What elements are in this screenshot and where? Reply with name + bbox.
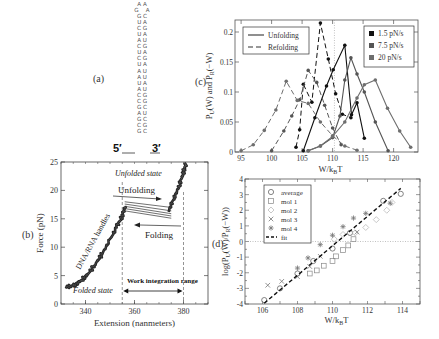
svg-text:-4: -4 xyxy=(237,300,243,309)
svg-text:114: 114 xyxy=(397,306,408,315)
svg-text:mol 2: mol 2 xyxy=(281,207,298,215)
svg-text:112: 112 xyxy=(362,306,373,315)
svg-text:mol 4: mol 4 xyxy=(281,225,298,233)
crooks-log-ratio-chart: 106108110112114-4-3-2-101234W/kBTlog(PU(… xyxy=(0,0,439,339)
svg-text:108: 108 xyxy=(292,306,304,315)
svg-text:mol 1: mol 1 xyxy=(281,198,298,206)
svg-text:log(PU(W)/PR(−W)): log(PU(W)/PR(−W)) xyxy=(220,207,231,276)
svg-text:-1: -1 xyxy=(237,253,243,262)
svg-text:110: 110 xyxy=(327,306,338,315)
svg-text:-3: -3 xyxy=(237,284,243,293)
svg-text:average: average xyxy=(281,189,303,197)
svg-text:0: 0 xyxy=(239,238,243,247)
svg-text:2: 2 xyxy=(239,206,243,215)
svg-text:mol 3: mol 3 xyxy=(281,216,298,224)
svg-text:fit: fit xyxy=(281,234,287,242)
svg-text:-2: -2 xyxy=(237,269,243,278)
svg-text:3: 3 xyxy=(239,191,243,200)
svg-text:W/kBT: W/kBT xyxy=(325,315,350,326)
svg-text:4: 4 xyxy=(239,175,243,184)
svg-text:106: 106 xyxy=(257,306,269,315)
svg-text:1: 1 xyxy=(239,222,243,231)
